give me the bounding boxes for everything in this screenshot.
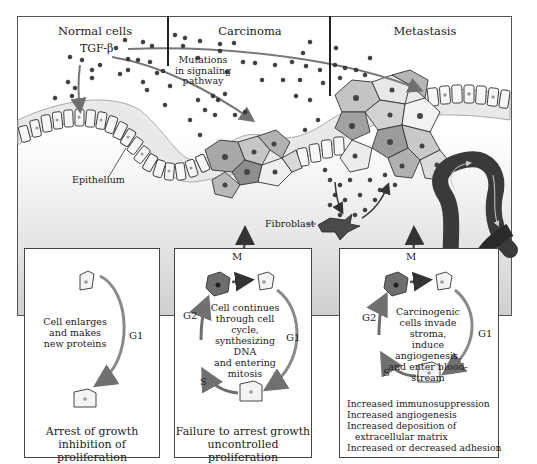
list-item: extracellular matrix bbox=[347, 431, 501, 442]
box3-effects-list: Increased immunosuppression Increased an… bbox=[347, 398, 501, 453]
list-item: Increased or decreased adhesion bbox=[347, 442, 501, 453]
list-item: Increased immunosuppression bbox=[347, 398, 501, 409]
box3-cycle-art bbox=[0, 0, 537, 464]
box3-text-line-5: stream bbox=[380, 372, 476, 383]
list-item: Increased deposition of bbox=[347, 420, 501, 431]
box3-text-line-1: Carcinogenic bbox=[380, 306, 476, 317]
box3-g2-label: G2 bbox=[362, 312, 376, 323]
box3-text-line-2: cells invade stroma, bbox=[380, 317, 476, 339]
box3-text-line-3: induce angiogenesis, bbox=[380, 339, 476, 361]
box3-g1-label: G1 bbox=[478, 328, 492, 339]
box3-text-line-4: and enter blood- bbox=[380, 361, 476, 372]
box3-m-label: M bbox=[406, 251, 416, 262]
box3-center-text: Carcinogenic cells invade stroma, induce… bbox=[380, 306, 476, 383]
list-item: Increased angiogenesis bbox=[347, 409, 501, 420]
